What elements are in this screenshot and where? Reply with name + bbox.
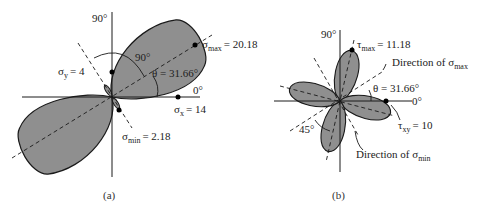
figure-b: 90° 0° 45° θ = 31.66° τmax= 11.18 τxy= 1… bbox=[274, 28, 468, 202]
stress-polar-diagrams: 90° 0° 90° θ = 31.66° σmax= 20.18 σx= 14… bbox=[0, 0, 477, 217]
label-direction-sigma-max: Direction of σmax bbox=[392, 56, 468, 71]
point-sigma-min bbox=[117, 108, 122, 113]
point-sigma-y bbox=[110, 70, 115, 75]
label-sigma-y: σy= 4 bbox=[58, 65, 85, 80]
label-90-a: 90° bbox=[92, 12, 107, 24]
label-tau-max: τmax= 11.18 bbox=[357, 38, 411, 53]
label-tau-xy: τxy= 10 bbox=[398, 119, 433, 134]
label-angle-90-a: 90° bbox=[135, 51, 150, 63]
label-0-a: 0° bbox=[193, 84, 203, 96]
label-sigma-x: σx= 14 bbox=[174, 103, 206, 118]
point-sigma-x bbox=[176, 95, 181, 100]
label-45-b: 45° bbox=[299, 123, 314, 135]
label-0-b: 0° bbox=[412, 95, 422, 107]
caption-b: (b) bbox=[332, 189, 345, 202]
label-sigma-min: σmin= 2.18 bbox=[122, 130, 171, 145]
point-tau-max bbox=[350, 48, 355, 53]
point-tau-xy bbox=[384, 99, 389, 104]
label-theta-a: θ = 31.66° bbox=[152, 67, 198, 79]
point-sigma-max bbox=[193, 43, 198, 48]
figure-a: 90° 0° 90° θ = 31.66° σmax= 20.18 σx= 14… bbox=[2, 9, 258, 202]
label-sigma-max: σmax= 20.18 bbox=[202, 38, 258, 53]
leader-tau-xy bbox=[391, 105, 400, 120]
caption-a: (a) bbox=[103, 189, 116, 202]
leader-dir-max bbox=[383, 64, 386, 70]
label-direction-sigma-min: Direction of σmin bbox=[356, 148, 431, 163]
label-90-b: 90° bbox=[321, 28, 336, 40]
label-theta-b: θ = 31.66° bbox=[373, 82, 419, 94]
